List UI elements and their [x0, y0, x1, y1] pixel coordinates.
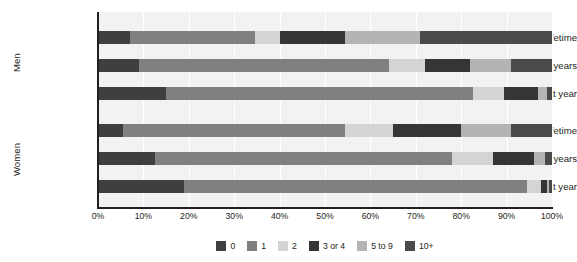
x-tick-label: 100%: [534, 211, 570, 221]
legend-label: 1: [261, 241, 266, 251]
legend-swatch-icon: [405, 241, 415, 251]
bar-segment-3-or-4: [280, 31, 346, 44]
legend-item-5-to-9[interactable]: 5 to 9: [357, 241, 393, 251]
x-tick-label: 30%: [216, 211, 252, 221]
bar-row: [98, 87, 552, 100]
legend-label: 2: [292, 241, 297, 251]
y-axis-line: [97, 12, 99, 208]
bar-segment-0: [98, 124, 123, 137]
bar-segment-10+: [420, 31, 552, 44]
bar-segment-3-or-4: [393, 124, 461, 137]
bar-segment-0: [98, 180, 184, 193]
bar-segment-3-or-4: [493, 152, 534, 165]
bar-segment-1: [123, 124, 345, 137]
legend-label: 10+: [419, 241, 434, 251]
bar-segment-5-to-9: [461, 124, 511, 137]
bar-segment-10+: [547, 87, 552, 100]
x-tick-label: 60%: [352, 211, 388, 221]
bar-row: [98, 31, 552, 44]
gridline: [552, 12, 553, 208]
bar-segment-2: [452, 152, 493, 165]
x-axis-line: [97, 207, 553, 209]
bar-segment-2: [527, 180, 541, 193]
bar-row: [98, 124, 552, 137]
bar-row: [98, 152, 552, 165]
bar-segment-10+: [549, 180, 552, 193]
group-label-men: Men: [11, 33, 22, 93]
bar-segment-1: [139, 59, 389, 72]
bar-segment-0: [98, 31, 130, 44]
legend-item-2[interactable]: 2: [278, 241, 297, 251]
bar-segment-2: [473, 87, 505, 100]
plot-area: [98, 12, 552, 208]
bar-segment-0: [98, 87, 166, 100]
bar-segment-0: [98, 59, 139, 72]
bar-segment-1: [130, 31, 255, 44]
bar-segment-5-to-9: [534, 152, 545, 165]
bar-segment-5-to-9: [470, 59, 511, 72]
legend-swatch-icon: [357, 241, 367, 251]
bar-segment-5-to-9: [345, 31, 420, 44]
x-tick-label: 10%: [125, 211, 161, 221]
x-tick-label: 0%: [80, 211, 116, 221]
legend-item-1[interactable]: 1: [247, 241, 266, 251]
stacked-bar-chart: Men Women Lifetime Last 5 years Last yea…: [0, 0, 577, 262]
bar-segment-1: [155, 152, 452, 165]
bar-segment-10+: [511, 59, 552, 72]
x-tick-label: 50%: [307, 211, 343, 221]
legend-label: 5 to 9: [371, 241, 393, 251]
bar-segment-2: [345, 124, 393, 137]
bar-row: [98, 59, 552, 72]
x-tick-label: 80%: [443, 211, 479, 221]
chart-legend: 0123 or 45 to 910+: [98, 238, 552, 254]
bar-segment-1: [184, 180, 527, 193]
legend-item-10+[interactable]: 10+: [405, 241, 434, 251]
legend-swatch-icon: [278, 241, 288, 251]
legend-item-3-or-4[interactable]: 3 or 4: [309, 241, 345, 251]
legend-swatch-icon: [216, 241, 226, 251]
bar-segment-10+: [545, 152, 552, 165]
bar-segment-10+: [511, 124, 552, 137]
bar-segment-1: [166, 87, 472, 100]
bar-segment-2: [255, 31, 280, 44]
group-label-women: Women: [11, 128, 22, 192]
bar-segment-2: [389, 59, 425, 72]
legend-swatch-icon: [309, 241, 319, 251]
legend-label: 3 or 4: [323, 241, 345, 251]
x-tick-label: 20%: [171, 211, 207, 221]
legend-label: 0: [230, 241, 235, 251]
bar-segment-0: [98, 152, 155, 165]
legend-swatch-icon: [247, 241, 257, 251]
x-tick-label: 90%: [489, 211, 525, 221]
bar-segment-3-or-4: [425, 59, 470, 72]
x-tick-label: 40%: [262, 211, 298, 221]
legend-item-0[interactable]: 0: [216, 241, 235, 251]
bar-row: [98, 180, 552, 193]
bar-segment-5-to-9: [538, 87, 547, 100]
x-tick-label: 70%: [398, 211, 434, 221]
bar-segment-3-or-4: [504, 87, 538, 100]
